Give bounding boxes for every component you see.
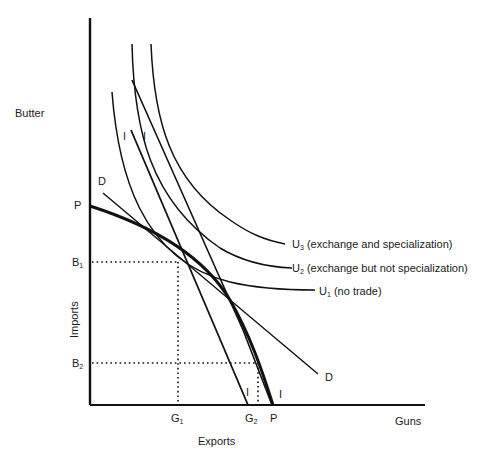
x-axis-title: Guns	[395, 415, 421, 427]
y-axis-title: Butter	[15, 107, 44, 119]
label-p-x: P	[270, 412, 277, 424]
label-g2: G2	[245, 412, 257, 428]
label-i-bottom-right: I	[279, 388, 282, 400]
indifference-curve-u3	[151, 44, 285, 244]
label-u1: U1 (no trade)	[319, 285, 382, 301]
domestic-price-line	[103, 193, 318, 374]
label-i-bottom-left: I	[246, 386, 249, 398]
intl-price-line-right	[132, 80, 272, 405]
label-i-top-right: I	[143, 130, 146, 142]
label-u2: U2 (exchange but not specialization)	[292, 262, 468, 278]
label-d-top: D	[98, 175, 106, 187]
label-g1: G1	[171, 412, 183, 428]
y-axis-subtitle: Imports	[68, 301, 80, 338]
x-axis-subtitle: Exports	[198, 435, 235, 447]
indifference-curve-u1	[112, 92, 315, 290]
label-d-bottom: D	[325, 371, 333, 383]
label-u3: U3 (exchange and specialization)	[292, 238, 452, 254]
label-p-y: P	[74, 199, 81, 211]
label-b1: B1	[72, 256, 83, 272]
ppf-curve	[90, 206, 273, 405]
label-i-top-left: I	[123, 130, 126, 142]
label-b2: B2	[72, 357, 83, 373]
